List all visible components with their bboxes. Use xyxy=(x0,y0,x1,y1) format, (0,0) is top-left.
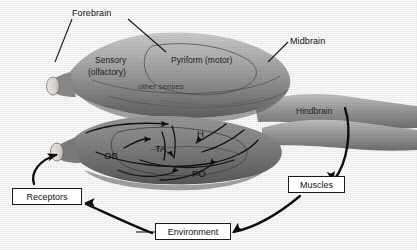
label-ta: TA xyxy=(155,143,166,154)
box-receptors[interactable]: Receptors xyxy=(12,188,82,205)
brain-illustration xyxy=(0,0,417,250)
box-muscles[interactable]: Muscles xyxy=(288,176,345,193)
arrow-environment-to-receptors xyxy=(86,204,152,233)
arrow-receptors-to-brain xyxy=(33,155,56,184)
upper-brain-body xyxy=(47,32,417,128)
box-environment-label: Environment xyxy=(168,227,219,237)
label-ob: OB xyxy=(104,150,118,161)
label-po: PO xyxy=(192,168,206,179)
label-hindbrain: Hindbrain xyxy=(296,106,332,116)
leader-forebrain-left xyxy=(55,19,72,62)
label-sensory: Sensory xyxy=(95,55,126,65)
label-h: H xyxy=(197,128,204,139)
figure-canvas: Forebrain Midbrain Hindbrain Sensory (ol… xyxy=(0,0,417,250)
label-pyriform-motor: Pyriform (motor) xyxy=(171,55,232,65)
leader-midbrain xyxy=(268,42,288,62)
box-environment[interactable]: Environment xyxy=(155,223,231,240)
label-other-senses: other senses xyxy=(138,82,184,91)
label-forebrain: Forebrain xyxy=(72,8,111,18)
label-olfactory: (olfactory) xyxy=(88,67,126,77)
box-receptors-label: Receptors xyxy=(26,192,67,202)
label-midbrain: Midbrain xyxy=(290,36,325,46)
box-muscles-label: Muscles xyxy=(300,180,333,190)
arrow-muscles-to-environment xyxy=(234,196,300,232)
label-hippocampus: Hippocampus xyxy=(160,99,212,109)
